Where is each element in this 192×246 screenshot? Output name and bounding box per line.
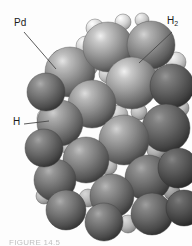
label-hydrogen-molecule-subscript: 2 <box>174 20 178 27</box>
palladium-atom <box>25 129 63 167</box>
figure-caption: FIGURE 14.5 <box>9 238 184 246</box>
palladium-atom <box>142 104 190 152</box>
leader-line-palladium <box>24 32 56 69</box>
label-hydrogen-atom: H <box>13 117 20 127</box>
palladium-atom-layer <box>25 21 192 241</box>
palladium-atom <box>85 203 123 241</box>
label-palladium-text: Pd <box>14 17 26 28</box>
label-hydrogen-atom-text: H <box>13 116 20 127</box>
palladium-atom <box>150 64 192 108</box>
palladium-atom <box>46 190 86 230</box>
label-hydrogen-molecule: H2 <box>167 16 178 27</box>
label-palladium: Pd <box>14 18 26 28</box>
molecule-space-filling-model <box>0 0 192 246</box>
palladium-atom <box>27 73 65 111</box>
figure-container: Pd H2 H FIGURE 14.5 <box>0 0 192 246</box>
palladium-atom <box>131 193 173 235</box>
